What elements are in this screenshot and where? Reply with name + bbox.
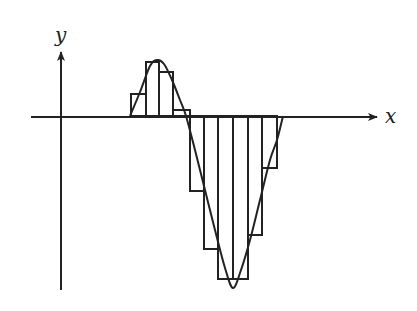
approximation-rectangle [173,110,190,116]
function-curve [130,60,283,288]
x-axis-label: x [385,104,396,128]
y-axis-label: y [54,23,67,47]
approximation-rectangle [204,116,218,249]
approximation-rectangles [131,62,277,279]
riemann-sum-diagram: x y [0,0,417,311]
